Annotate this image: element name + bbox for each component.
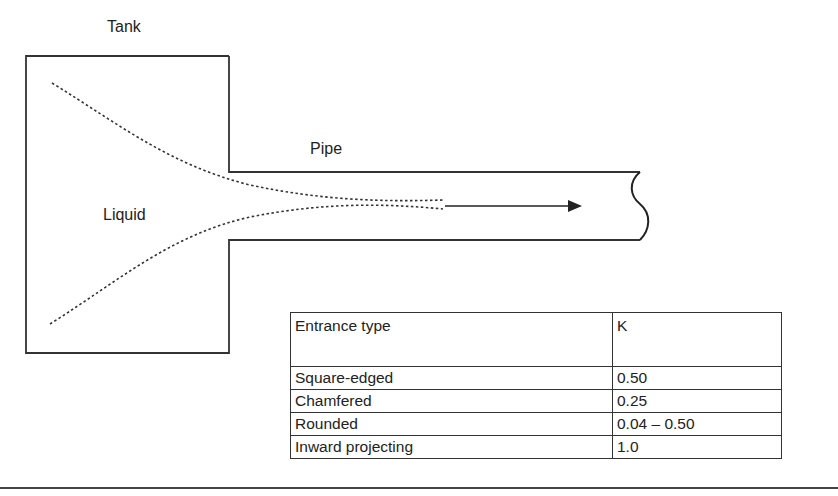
k-value-cell: 0.50 xyxy=(613,367,782,390)
bottom-divider xyxy=(0,487,838,489)
table-row: Rounded 0.04 – 0.50 xyxy=(291,413,782,436)
entrance-type-cell: Square-edged xyxy=(291,367,613,390)
flow-arrow-icon xyxy=(445,200,582,212)
table-header-row: Entrance type K xyxy=(291,313,782,367)
table-row: Square-edged 0.50 xyxy=(291,367,782,390)
streamlines xyxy=(50,83,443,324)
table-row: Chamfered 0.25 xyxy=(291,390,782,413)
entrance-type-cell: Chamfered xyxy=(291,390,613,413)
pipe-label: Pipe xyxy=(310,140,342,158)
entrance-type-cell: Rounded xyxy=(291,413,613,436)
liquid-label: Liquid xyxy=(103,206,146,224)
k-value-cell: 0.25 xyxy=(613,390,782,413)
tank-label: Tank xyxy=(107,18,141,36)
header-k: K xyxy=(613,313,782,367)
tank-pipe-outline xyxy=(26,56,640,353)
entrance-type-cell: Inward projecting xyxy=(291,436,613,459)
pipe-break-icon xyxy=(632,172,649,240)
entrance-loss-table: Entrance type K Square-edged 0.50 Chamfe… xyxy=(290,312,782,459)
table-row: Inward projecting 1.0 xyxy=(291,436,782,459)
k-value-cell: 0.04 – 0.50 xyxy=(613,413,782,436)
header-entrance-type: Entrance type xyxy=(291,313,613,367)
k-value-cell: 1.0 xyxy=(613,436,782,459)
